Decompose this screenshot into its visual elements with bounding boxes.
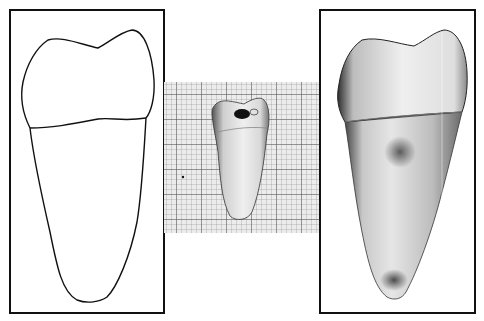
tooth-photograph [321,11,478,316]
caries-cavity [234,109,250,119]
graph-paper-panel [164,82,320,233]
graph-paper-with-specimen [164,82,320,233]
tooth-outline-drawing [11,11,167,316]
outline-drawing-panel [9,9,165,314]
grid-dot [182,176,184,178]
crown [338,30,468,122]
specimen-photo-panel [319,9,476,314]
cej-line [30,118,146,128]
tooth-contour [22,30,154,302]
